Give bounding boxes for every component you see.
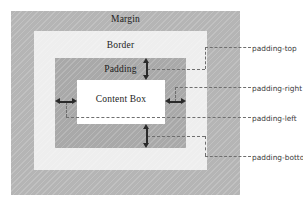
border-box-label: Border — [34, 40, 207, 50]
padding-box-label: Padding — [55, 64, 186, 74]
padding-right-dimension-arrow — [165, 96, 186, 108]
annotation-label-padding-top: padding-top — [252, 44, 297, 53]
padding-top-dimension-arrow — [141, 58, 153, 80]
annotation-label-padding-right: padding-right — [252, 84, 302, 93]
annotation-label-padding-left: padding-left — [252, 114, 297, 123]
annotation-label-padding-bottom: padding-botton — [252, 153, 303, 162]
content-box-label: Content Box — [77, 94, 165, 104]
padding-bottom-dimension-arrow — [141, 124, 153, 148]
margin-box-label: Margin — [11, 14, 240, 24]
css-box-model-diagram: Margin Border Padding Content Box paddin… — [0, 0, 303, 207]
padding-left-dimension-arrow — [55, 96, 77, 108]
